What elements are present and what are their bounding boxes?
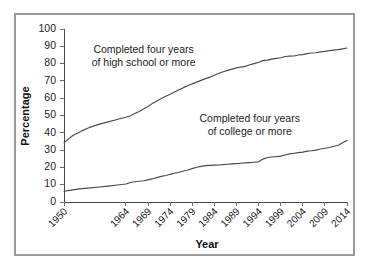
y-tick-label: 10 [44,177,56,189]
x-tick-label: 1984 [196,205,220,229]
series-line [64,141,347,192]
figure-container: 0102030405060708090100 19501964196919741… [0,0,373,269]
x-tick-label: 1979 [174,205,198,229]
college-annotation: of college or more [208,125,292,137]
x-tick-label: 1950 [46,205,70,229]
y-tick-label: 0 [50,195,56,207]
x-tick-label: 1974 [152,205,176,229]
series-annotations: Completed four yearsof high school or mo… [92,43,300,137]
y-tick-label: 30 [44,143,56,155]
y-tick-label: 100 [38,22,56,34]
x-tick-label: 1999 [263,205,287,229]
y-tick-label: 70 [44,74,56,86]
x-tick-label: 1969 [130,205,154,229]
x-tick-label: 2009 [307,205,331,229]
line-chart: 0102030405060708090100 19501964196919741… [0,0,373,269]
y-axis-ticks: 0102030405060708090100 [38,22,64,207]
y-axis-title: Percentage [19,86,31,145]
college-annotation: Completed four years [200,112,300,124]
x-tick-label: 2014 [329,205,353,229]
y-tick-label: 90 [44,39,56,51]
y-tick-label: 40 [44,126,56,138]
x-tick-label: 1994 [240,205,264,229]
y-tick-label: 80 [44,56,56,68]
y-tick-label: 20 [44,160,56,172]
x-axis-title: Year [195,238,219,250]
high-school-annotation: Completed four years [93,43,193,55]
x-tick-label: 1964 [108,205,132,229]
x-axis-ticks: 1950196419691974197919841989199419992004… [46,202,353,229]
x-tick-label: 2004 [285,205,309,229]
y-tick-label: 60 [44,91,56,103]
y-tick-label: 50 [44,108,56,120]
high-school-annotation: of high school or more [92,56,196,68]
x-tick-label: 1989 [218,205,242,229]
